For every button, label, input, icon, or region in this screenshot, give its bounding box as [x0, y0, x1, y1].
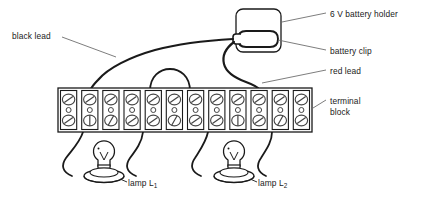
lamp1-left-wire [63, 132, 83, 176]
label-terminal-block: terminalblock [330, 96, 361, 117]
diagram-canvas [0, 0, 431, 200]
lamp-2-bulb [224, 141, 245, 166]
lamp-2-filament-dot [228, 148, 230, 150]
leader-lamp-1 [120, 179, 127, 182]
lamp2-right-wire [258, 132, 272, 176]
lamp2-left-wire [192, 132, 208, 176]
lamp-1-filament-dot [98, 148, 100, 150]
circuit-diagram: 6 V battery holder battery clip red lead… [0, 0, 431, 200]
leader-terminal-block [313, 100, 326, 108]
label-lamp-1-text: lamp L [128, 178, 154, 188]
label-battery-clip: battery clip [330, 46, 372, 57]
label-lamp-1-subscript: 1 [154, 182, 158, 189]
lamp-1-bulb [94, 141, 115, 166]
label-lamp-2: lamp L2 [258, 178, 287, 190]
lamp-2-holder-top [220, 168, 248, 177]
label-lamp-2-subscript: 2 [284, 182, 288, 189]
label-lamp-1: lamp L1 [128, 178, 157, 190]
leader-battery-holder [282, 13, 326, 22]
lamp-1-holder-top [90, 168, 118, 177]
terminal-block [58, 88, 312, 132]
label-lamp-2-text: lamp L [258, 178, 284, 188]
leader-red-lead [262, 70, 326, 83]
black-lead-wire [90, 39, 233, 91]
battery-clip-body [238, 31, 278, 47]
battery-clip [233, 31, 278, 47]
label-terminal-block-line2: block [330, 107, 350, 117]
lamp1-right-wire [127, 132, 143, 176]
leader-battery-clip [278, 40, 326, 50]
label-battery-holder: 6 V battery holder [330, 9, 398, 20]
label-terminal-block-line1: terminal [330, 96, 361, 106]
leader-black-lead [62, 37, 116, 57]
lamp-2 [214, 141, 254, 183]
label-red-lead: red lead [330, 66, 361, 77]
lamp-1 [84, 141, 124, 183]
leader-lamp-2 [250, 179, 257, 182]
label-black-lead: black lead [12, 31, 51, 42]
terminal-block-body [58, 88, 312, 132]
